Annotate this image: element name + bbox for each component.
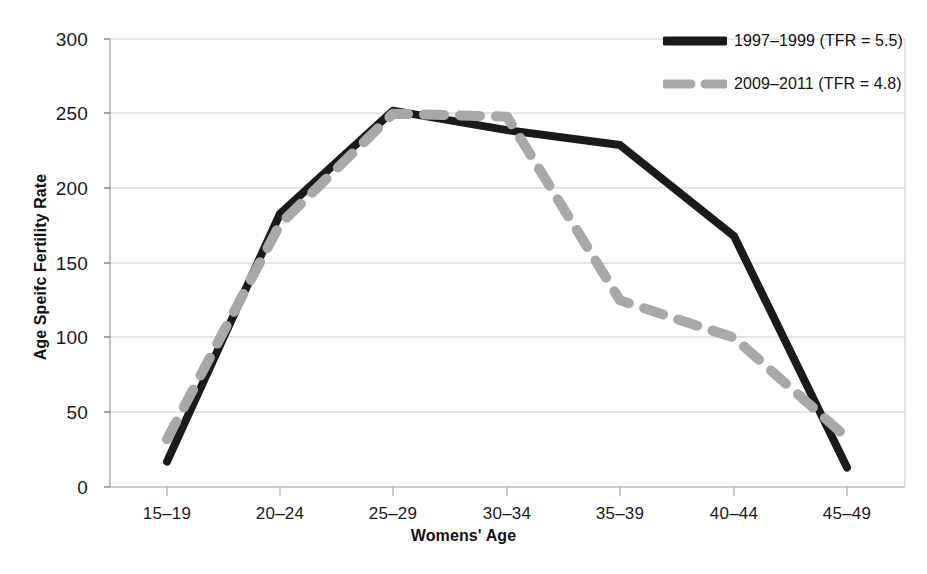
x-tick-label-30-34: 30–34 [447,505,567,522]
series-line-2 [167,114,847,440]
x-axis-ticks [167,487,847,496]
dashed-gray-line-swatch [663,69,727,99]
legend-label-1997-1999: 1997–1999 (TFR = 5.5) [734,32,903,50]
x-tick-label-25-29: 25–29 [333,505,453,522]
legend-item-1997-1999[interactable]: 1997–1999 (TFR = 5.5) [663,26,918,56]
legend-item-2009-2011[interactable]: 2009–2011 (TFR = 4.8) [663,69,918,99]
y-axis-ticks [104,39,110,487]
y-axis-title: Age Speifc Fertility Rate [32,132,50,402]
x-tick-label-40-44: 40–44 [674,505,794,522]
y-tick-label-50: 50 [34,403,88,422]
data-series-layer [167,111,847,468]
x-axis-title: Womens' Age [0,527,927,545]
fertility-rate-line-chart: 300 250 200 150 100 50 0 15–19 20–24 25–… [0,0,927,574]
x-tick-label-20-24: 20–24 [220,505,340,522]
y-tick-label-0: 0 [34,478,88,497]
x-tick-label-35-39: 35–39 [560,505,680,522]
solid-black-line-swatch [663,26,727,56]
x-tick-label-45-49: 45–49 [787,505,907,522]
chart-legend: 1997–1999 (TFR = 5.5) 2009–2011 (TFR = 4… [663,26,918,112]
y-tick-label-300: 300 [34,30,88,49]
legend-label-2009-2011: 2009–2011 (TFR = 4.8) [734,75,902,93]
x-tick-label-15-19: 15–19 [107,505,227,522]
series-line-1 [167,111,847,468]
y-tick-label-250: 250 [34,104,88,123]
